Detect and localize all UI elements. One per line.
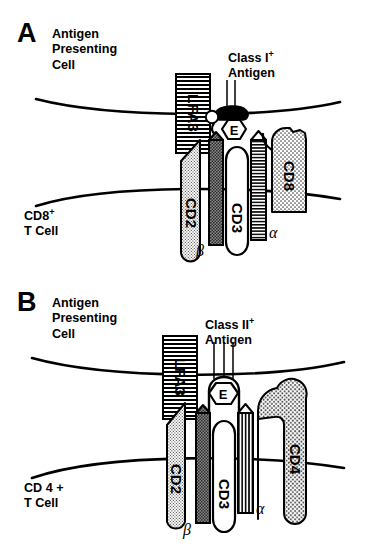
label-epitope-b: E bbox=[219, 387, 228, 402]
label-cd4-b: CD4 bbox=[287, 444, 304, 475]
apc-label-a: Antigen Presenting Cell bbox=[52, 27, 117, 73]
molecule-tcr-beta-chain-b bbox=[196, 405, 210, 523]
label-tcr-beta-b: β bbox=[183, 522, 191, 538]
antigen-label-b: Class II+Antigen bbox=[205, 318, 254, 349]
label-lfa3-a: LFA3 bbox=[185, 94, 202, 132]
molecule-cd3-a bbox=[226, 147, 248, 255]
label-tcr-alpha-a: α bbox=[269, 225, 277, 241]
label-cd2-a: CD2 bbox=[183, 198, 200, 228]
antigen-label-a: Class I+Antigen bbox=[228, 51, 275, 82]
molecule-tcr-beta-chain-a bbox=[209, 132, 223, 245]
panel-letter-b: B bbox=[17, 289, 37, 316]
antigen-label-b-sup: + bbox=[249, 316, 254, 326]
beta2-microglobulin-a bbox=[206, 111, 218, 123]
label-cd8-a: CD8 bbox=[281, 161, 298, 191]
label-cd2-b: CD2 bbox=[168, 464, 185, 494]
figure-root: LFA3 CD2 CD3 CD8 E A Antigen Presenting … bbox=[0, 0, 374, 558]
panel-b: LFA3 CD2 CD3 CD4 E B Antigen Presenting … bbox=[0, 279, 374, 558]
tcell-label-a: CD8+T Cell bbox=[24, 209, 58, 240]
antigen-label-a-line2: Antigen bbox=[228, 66, 275, 80]
antigen-label-a-sup: + bbox=[269, 49, 274, 59]
apc-label-b: Antigen Presenting Cell bbox=[52, 296, 117, 342]
molecule-cd3-b bbox=[213, 421, 235, 532]
antigen-label-b-main: Class II bbox=[205, 318, 249, 332]
tcell-label-b-main: CD 4 + bbox=[24, 481, 64, 495]
antigen-label-a-main: Class I bbox=[228, 51, 269, 65]
label-cd3-b: CD3 bbox=[216, 479, 233, 509]
tcell-label-a-sup: + bbox=[49, 207, 54, 217]
label-tcr-alpha-b: α bbox=[256, 501, 264, 517]
tcell-label-a-main: CD8 bbox=[24, 209, 49, 223]
panel-a: LFA3 CD2 CD3 CD8 E A Antigen Presenting … bbox=[0, 0, 374, 279]
tcell-label-a-line2: T Cell bbox=[24, 224, 58, 238]
label-epitope-a: E bbox=[230, 123, 239, 138]
molecule-tcr-alpha-chain-a bbox=[251, 131, 266, 240]
tcell-label-b: CD 4 +T Cell bbox=[24, 481, 64, 512]
label-tcr-beta-a: β bbox=[196, 243, 204, 259]
antigen-label-b-line2: Antigen bbox=[205, 333, 252, 347]
tcell-label-b-line2: T Cell bbox=[24, 496, 58, 510]
label-lfa3-b: LFA3 bbox=[172, 358, 189, 396]
panel-letter-a: A bbox=[17, 20, 37, 47]
label-cd3-a: CD3 bbox=[229, 203, 246, 233]
molecule-tcr-alpha-chain-b bbox=[238, 404, 253, 513]
